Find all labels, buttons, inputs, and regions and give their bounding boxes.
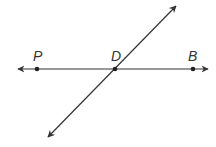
transversal-line — [48, 6, 176, 137]
label-p: P — [33, 48, 43, 64]
geometry-diagram: P D B — [0, 0, 216, 147]
label-d: D — [111, 48, 121, 64]
point-d — [113, 67, 118, 72]
point-p — [35, 67, 40, 72]
point-b — [191, 67, 196, 72]
label-b: B — [188, 48, 197, 64]
